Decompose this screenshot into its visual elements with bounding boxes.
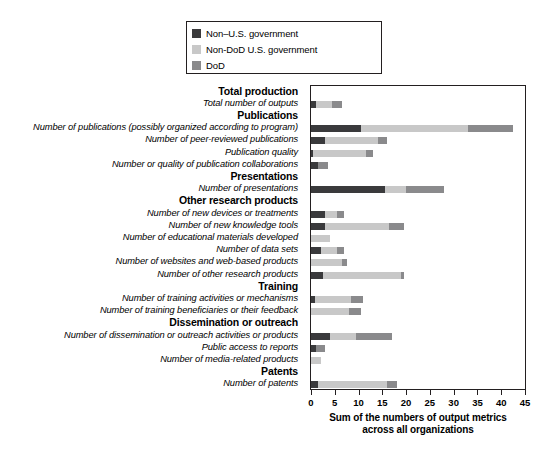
legend-non-dod-us-government: Non-DoD U.S. government <box>192 42 376 57</box>
bar-stack <box>311 125 513 132</box>
bar-stack <box>311 211 344 218</box>
x-axis-title: Sum of the numbers of output metrics acr… <box>310 412 526 436</box>
bar-segment <box>316 101 333 108</box>
x-axis-title-line1: Sum of the numbers of output metrics <box>310 412 526 424</box>
bar-segment <box>311 211 325 218</box>
row-item-label: Number of websites and web-based product… <box>116 256 298 267</box>
x-axis-tick <box>430 390 431 395</box>
x-axis-tick <box>454 390 455 395</box>
row-item-label: Public access to reports <box>202 342 298 353</box>
bar-segment <box>321 247 338 254</box>
x-axis-tick <box>311 390 312 395</box>
bar-segment <box>356 333 392 340</box>
bar-segment <box>385 186 406 193</box>
legend-label: Non–U.S. government <box>206 29 298 39</box>
bar-segment <box>311 162 318 169</box>
bar-segment <box>366 150 373 157</box>
row-item-label: Number of training beneficiaries or thei… <box>100 305 298 316</box>
bar-segment <box>349 308 361 315</box>
row-item-label: Total number of outputs <box>203 98 298 109</box>
bar-segment <box>468 125 513 132</box>
bar-segment <box>311 186 385 193</box>
bar-segment <box>313 150 365 157</box>
bar-segment <box>332 101 342 108</box>
bar-segment <box>325 223 389 230</box>
bar-segment <box>401 272 403 279</box>
x-axis-tick-label: 45 <box>520 397 531 408</box>
bar-segment <box>389 223 403 230</box>
row-group-label: Dissemination or outreach <box>169 317 298 328</box>
row-item-label: Number of patents <box>223 378 298 389</box>
row-item-label: Number of new devices or treatments <box>147 208 298 219</box>
row-group-label: Presentations <box>231 171 299 182</box>
x-axis-tick-label: 15 <box>377 397 388 408</box>
legend-swatch-icon <box>192 61 201 70</box>
bar-stack <box>311 357 321 364</box>
bar-segment <box>311 235 330 242</box>
bar-stack <box>311 137 387 144</box>
bar-segment <box>311 223 325 230</box>
bar-segment <box>311 247 321 254</box>
bar-segment <box>378 137 388 144</box>
bar-segment <box>406 186 444 193</box>
bar-stack <box>311 296 363 303</box>
legend-swatch-icon <box>192 29 201 38</box>
bar-stack <box>311 101 342 108</box>
x-axis-tick <box>477 390 478 395</box>
plot-area <box>310 85 526 390</box>
row-item-label: Number of new knowledge tools <box>169 220 298 231</box>
bar-segment <box>323 272 401 279</box>
bar-stack <box>311 308 361 315</box>
row-item-label: Number of presentations <box>198 183 298 194</box>
bar-segment <box>342 259 347 266</box>
row-item-label: Number of educational materials develope… <box>123 232 298 243</box>
stacked-bar-chart-figure: Non–U.S. governmentNon-DoD U.S. governme… <box>0 0 556 462</box>
x-axis-tick-label: 30 <box>448 397 459 408</box>
bar-segment <box>325 137 377 144</box>
row-group-label: Patents <box>261 366 298 377</box>
bar-segment <box>311 259 342 266</box>
bar-stack <box>311 235 330 242</box>
x-axis-tick-label: 20 <box>401 397 412 408</box>
row-item-label: Publication quality <box>225 147 298 158</box>
row-group-label: Publications <box>237 110 298 121</box>
x-axis-tick-labels: 051015202530354045 <box>310 397 526 410</box>
legend-label: Non-DoD U.S. government <box>206 45 317 55</box>
legend-label: DoD <box>206 61 225 71</box>
x-axis-tick-label: 35 <box>472 397 483 408</box>
bar-segment <box>337 247 344 254</box>
bar-stack <box>311 381 397 388</box>
bar-segment <box>311 125 361 132</box>
chart-legend: Non–U.S. governmentNon-DoD U.S. governme… <box>186 21 382 74</box>
row-item-label: Number of training activities or mechani… <box>122 293 298 304</box>
bars-container <box>311 86 525 389</box>
bar-segment <box>311 308 349 315</box>
x-axis-tick <box>335 390 336 395</box>
bar-segment <box>311 381 318 388</box>
bar-segment <box>337 211 344 218</box>
legend-swatch-icon <box>192 45 201 54</box>
x-axis-tick-label: 0 <box>308 397 313 408</box>
row-labels-container: Total productionTotal number of outputsP… <box>0 85 304 390</box>
legend-dod: DoD <box>192 58 376 73</box>
bar-stack <box>311 150 373 157</box>
bar-segment <box>387 381 397 388</box>
bar-segment <box>311 137 325 144</box>
row-group-label: Training <box>258 281 298 292</box>
bar-segment <box>351 296 363 303</box>
bar-segment <box>361 125 468 132</box>
bar-stack <box>311 223 404 230</box>
bar-segment <box>311 357 321 364</box>
x-axis-tick <box>359 390 360 395</box>
bar-stack <box>311 259 347 266</box>
bar-stack <box>311 162 328 169</box>
bar-segment <box>318 381 387 388</box>
row-item-label: Number or quality of publication collabo… <box>112 159 298 170</box>
x-axis-tick <box>525 390 526 395</box>
row-item-label: Number of peer-reviewed publications <box>145 134 298 145</box>
bar-stack <box>311 186 444 193</box>
row-item-label: Number of data sets <box>216 244 298 255</box>
x-axis-tick-label: 5 <box>332 397 337 408</box>
legend-non-us-government: Non–U.S. government <box>192 26 376 41</box>
x-axis-tick <box>382 390 383 395</box>
